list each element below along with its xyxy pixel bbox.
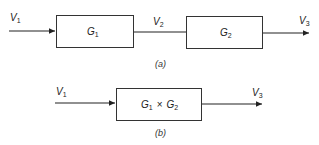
label-g1-times-g2: G1×G2: [141, 99, 178, 111]
label-v1: V1: [10, 12, 21, 24]
diagram-a: V1 G1 V2 G2 V3 (a): [9, 12, 310, 69]
label-v2: V2: [153, 16, 164, 28]
label-v3-b: V3: [252, 87, 263, 99]
caption-a: (a): [155, 59, 166, 69]
label-v1-b: V1: [56, 86, 67, 98]
diagram-b: V1 G1×G2 V3 (b): [55, 86, 263, 138]
caption-b: (b): [155, 128, 166, 138]
label-v3: V3: [299, 15, 310, 27]
